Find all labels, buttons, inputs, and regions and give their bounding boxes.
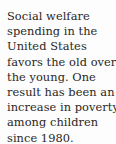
text-line: increase in poverty — [7, 100, 113, 115]
document-page: Social welfare spending in the United St… — [0, 0, 116, 144]
text-line: favors the old over — [7, 55, 113, 70]
paragraph-text-block: Social welfare spending in the United St… — [7, 9, 113, 144]
text-line: United States — [7, 39, 113, 54]
text-line: among children — [7, 115, 113, 130]
text-line: since 1980. — [7, 131, 113, 144]
text-line: Social welfare — [7, 9, 113, 24]
text-line: spending in the — [7, 24, 113, 39]
text-line: result has been an — [7, 85, 113, 100]
text-line: the young. One — [7, 70, 113, 85]
